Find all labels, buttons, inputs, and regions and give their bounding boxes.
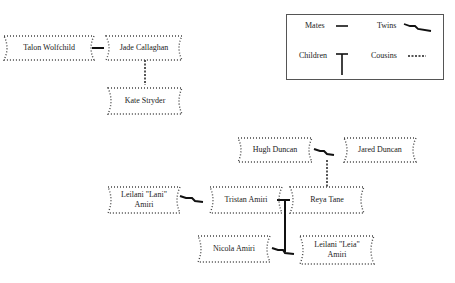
person-leilani-leia-amiri[interactable]: Leilani "Leia" Amiri — [298, 234, 376, 266]
legend-children-label: Children — [299, 51, 327, 60]
person-jared-duncan[interactable]: Jared Duncan — [342, 136, 418, 164]
person-name: Hugh Duncan — [245, 145, 306, 155]
twins-link-lani-tristan — [180, 196, 203, 202]
person-name: Nicola Amiri — [205, 244, 263, 254]
legend: Mates Twins Children Cousins — [286, 14, 444, 80]
person-name: Jade Callaghan — [112, 43, 177, 53]
person-name: Jared Duncan — [350, 145, 410, 155]
person-hugh-duncan[interactable]: Hugh Duncan — [236, 136, 314, 164]
twins-link-nicola-leia — [272, 248, 294, 254]
person-tristan-amiri[interactable]: Tristan Amiri — [208, 185, 284, 215]
cousins-line-icon — [407, 53, 427, 59]
person-leilani-lani-amiri[interactable]: Leilani "Lani" Amiri — [106, 185, 182, 215]
legend-twins-label: Twins — [377, 21, 396, 30]
person-name: Leilani "Lani" Amiri — [106, 190, 182, 210]
person-jade-callaghan[interactable]: Jade Callaghan — [104, 34, 184, 62]
twins-link-hugh-jared — [314, 149, 334, 155]
legend-mates-label: Mates — [305, 21, 325, 30]
person-nicola-amiri[interactable]: Nicola Amiri — [196, 234, 272, 264]
children-line-icon — [335, 51, 349, 77]
person-talon-wolfchild[interactable]: Talon Wolfchild — [2, 34, 96, 62]
legend-cousins-label: Cousins — [371, 51, 397, 60]
mates-line-icon — [335, 23, 349, 29]
twins-line-icon — [403, 21, 433, 33]
person-name: Tristan Amiri — [216, 195, 275, 205]
person-reya-tane[interactable]: Reya Tane — [288, 185, 366, 215]
person-name: Leilani "Leia" Amiri — [298, 240, 376, 260]
person-name: Talon Wolfchild — [15, 43, 83, 53]
person-kate-stryder[interactable]: Kate Stryder — [106, 86, 184, 116]
person-name: Kate Stryder — [117, 96, 174, 106]
person-name: Reya Tane — [302, 195, 352, 205]
